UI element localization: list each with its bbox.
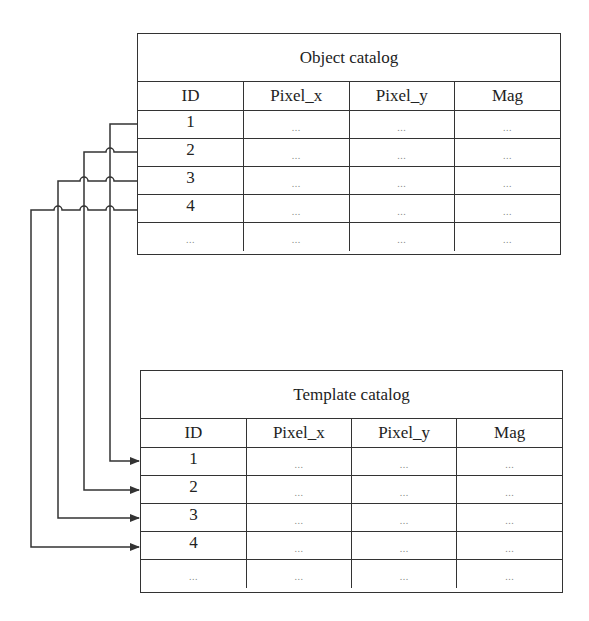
cell-mag: ... (457, 447, 562, 475)
column-header-pixel-y: Pixel_y (352, 419, 457, 447)
cell-pixel-x: ... (244, 222, 350, 251)
cell-pixel-y: ... (352, 475, 457, 503)
cell-pixel-x: ... (246, 559, 351, 588)
cell-id: 1 (141, 447, 246, 475)
column-header-id: ID (138, 82, 244, 110)
column-header-id: ID (141, 419, 246, 447)
cell-pixel-x: ... (246, 503, 351, 531)
column-header-mag: Mag (455, 82, 561, 110)
template-catalog-table: Template catalog ID Pixel_x Pixel_y Mag … (140, 370, 563, 593)
cell-pixel-y: ... (352, 447, 457, 475)
cell-pixel-x: ... (244, 138, 350, 166)
link-id-2 (84, 148, 139, 490)
cell-mag: ... (455, 222, 561, 251)
cell-pixel-x: ... (246, 475, 351, 503)
cell-pixel-y: ... (349, 138, 455, 166)
cell-pixel-x: ... (244, 194, 350, 222)
cell-id: 1 (138, 110, 244, 138)
cell-mag: ... (457, 559, 562, 588)
cell-mag: ... (455, 166, 561, 194)
cell-id: 4 (138, 194, 244, 222)
column-header-pixel-x: Pixel_x (246, 419, 351, 447)
cell-id: 2 (141, 475, 246, 503)
cell-mag: ... (457, 531, 562, 559)
column-header-pixel-y: Pixel_y (349, 82, 455, 110)
table-row: 2 ... ... ... (138, 138, 560, 166)
cell-pixel-y: ... (352, 503, 457, 531)
cell-mag: ... (455, 110, 561, 138)
cell-pixel-y: ... (349, 166, 455, 194)
table-row: 4 ... ... ... (141, 531, 562, 559)
link-id-4 (31, 206, 139, 547)
cell-id: 3 (141, 503, 246, 531)
cell-id: ... (138, 222, 244, 251)
cell-id: 4 (141, 531, 246, 559)
table-row: ... ... ... ... (141, 559, 562, 588)
cell-mag: ... (457, 475, 562, 503)
cell-mag: ... (455, 138, 561, 166)
cell-id: ... (141, 559, 246, 588)
link-id-3 (58, 177, 139, 518)
link-id-1 (110, 124, 139, 461)
header-row: ID Pixel_x Pixel_y Mag (141, 419, 562, 447)
cell-pixel-y: ... (349, 194, 455, 222)
cell-id: 3 (138, 166, 244, 194)
cell-id: 2 (138, 138, 244, 166)
template-catalog-title: Template catalog (141, 371, 562, 419)
cell-pixel-x: ... (244, 166, 350, 194)
header-row: ID Pixel_x Pixel_y Mag (138, 82, 560, 110)
cell-pixel-x: ... (246, 447, 351, 475)
cell-pixel-x: ... (246, 531, 351, 559)
table-row: 4 ... ... ... (138, 194, 560, 222)
table-row: 1 ... ... ... (138, 110, 560, 138)
table-row: 3 ... ... ... (141, 503, 562, 531)
table-row: 1 ... ... ... (141, 447, 562, 475)
column-header-pixel-x: Pixel_x (244, 82, 350, 110)
table-row: 3 ... ... ... (138, 166, 560, 194)
table-row: 2 ... ... ... (141, 475, 562, 503)
cell-pixel-y: ... (349, 110, 455, 138)
cell-pixel-y: ... (349, 222, 455, 251)
object-catalog-title: Object catalog (138, 34, 560, 82)
cell-mag: ... (457, 503, 562, 531)
cell-pixel-y: ... (352, 559, 457, 588)
object-catalog-table: Object catalog ID Pixel_x Pixel_y Mag 1 … (137, 33, 561, 255)
table-row: ... ... ... ... (138, 222, 560, 251)
cell-pixel-x: ... (244, 110, 350, 138)
cell-mag: ... (455, 194, 561, 222)
column-header-mag: Mag (457, 419, 562, 447)
cell-pixel-y: ... (352, 531, 457, 559)
